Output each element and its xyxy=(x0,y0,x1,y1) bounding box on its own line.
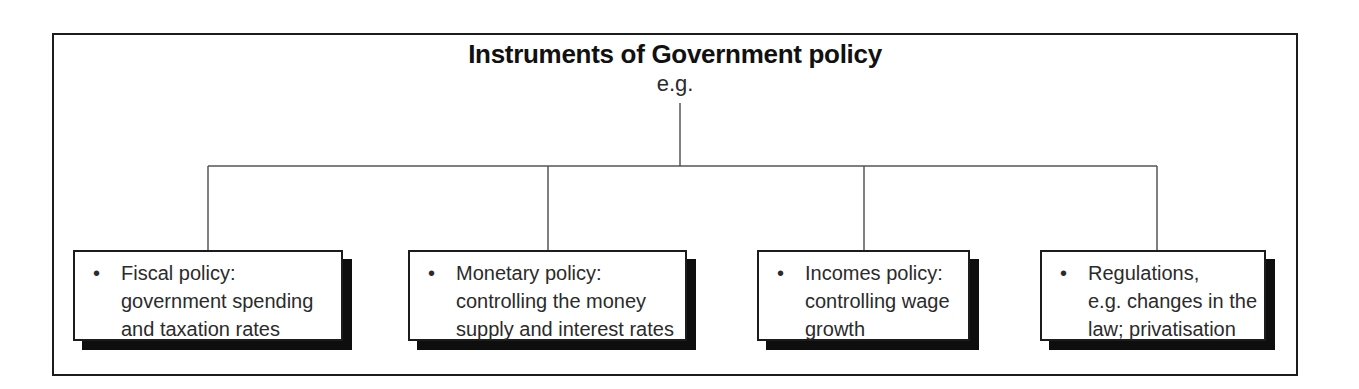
page-background: Instruments of Government policy e.g. • … xyxy=(0,0,1359,389)
policy-box-fiscal-text: Fiscal policy: government spending and t… xyxy=(121,259,339,343)
policy-line: law; privatisation xyxy=(1088,315,1262,343)
bullet-icon: • xyxy=(1060,259,1067,287)
bullet-icon: • xyxy=(93,259,100,287)
policy-line: controlling wage xyxy=(805,287,966,315)
policy-line: growth xyxy=(805,315,966,343)
policy-line: controlling the money xyxy=(456,287,683,315)
policy-box-regulations: • Regulations, e.g. changes in the law; … xyxy=(1040,250,1266,341)
policy-line: supply and interest rates xyxy=(456,315,683,343)
policy-line: and taxation rates xyxy=(121,315,339,343)
policy-line: Fiscal policy: xyxy=(121,259,339,287)
bullet-icon: • xyxy=(428,259,435,287)
policy-line: Monetary policy: xyxy=(456,259,683,287)
bullet-icon: • xyxy=(777,259,784,287)
policy-box-incomes: • Incomes policy: controlling wage growt… xyxy=(757,250,970,341)
policy-box-monetary: • Monetary policy: controlling the money… xyxy=(408,250,687,341)
policy-line: Regulations, xyxy=(1088,259,1262,287)
diagram-frame: Instruments of Government policy e.g. • … xyxy=(52,33,1298,376)
policy-line: Incomes policy: xyxy=(805,259,966,287)
policy-box-incomes-text: Incomes policy: controlling wage growth xyxy=(805,259,966,343)
policy-box-fiscal: • Fiscal policy: government spending and… xyxy=(73,250,343,341)
policy-line: e.g. changes in the xyxy=(1088,287,1262,315)
policy-box-regulations-text: Regulations, e.g. changes in the law; pr… xyxy=(1088,259,1262,343)
policy-line: government spending xyxy=(121,287,339,315)
policy-box-monetary-text: Monetary policy: controlling the money s… xyxy=(456,259,683,343)
